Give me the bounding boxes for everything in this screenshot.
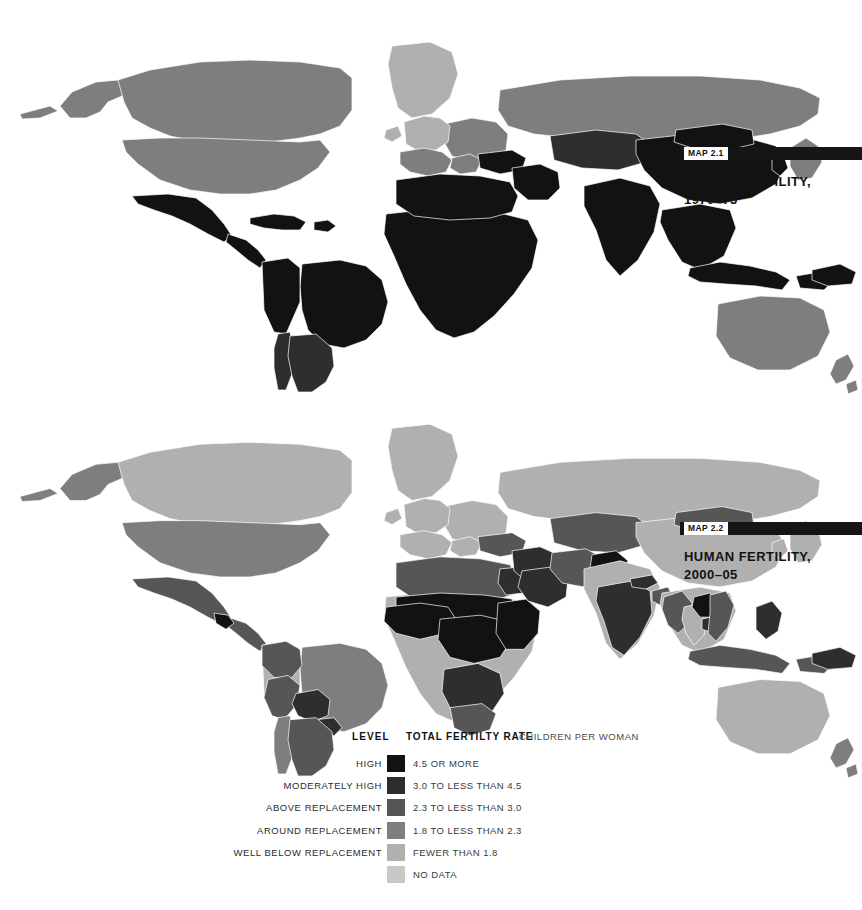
map-region bbox=[292, 690, 330, 722]
legend-level-label: HIGH bbox=[356, 758, 382, 769]
map-region bbox=[250, 214, 336, 232]
legend-header: LEVEL TOTAL FERTILTY RATE CHILDREN PER W… bbox=[0, 731, 862, 747]
legend-value-label: 3.0 TO LESS THAN 4.5 bbox=[413, 780, 522, 791]
map-region bbox=[708, 591, 734, 641]
map-heading-1: HUMAN FERTILITY, 1970–75 bbox=[684, 173, 862, 209]
map-heading-2: HUMAN FERTILITY, 2000–05 bbox=[684, 548, 862, 584]
map-region bbox=[20, 80, 126, 119]
legend-color-swatch bbox=[387, 777, 405, 794]
legend-value-label: NO DATA bbox=[413, 869, 457, 880]
map-region bbox=[716, 296, 830, 370]
legend-units-header: CHILDREN PER WOMAN bbox=[519, 731, 639, 742]
map-title-block-1: MAP 2.1 HUMAN FERTILITY, 1970–75 bbox=[670, 147, 862, 209]
map-region bbox=[584, 178, 660, 276]
legend-color-swatch bbox=[387, 866, 405, 883]
map-region bbox=[122, 138, 330, 194]
map-region bbox=[226, 234, 266, 268]
map-region bbox=[384, 499, 450, 535]
legend-row: ABOVE REPLACEMENT2.3 TO LESS THAN 3.0 bbox=[0, 799, 862, 821]
legend: LEVEL TOTAL FERTILTY RATE CHILDREN PER W… bbox=[0, 731, 862, 896]
legend-color-swatch bbox=[387, 822, 405, 839]
map-region bbox=[396, 174, 518, 220]
map-number-bar-1: MAP 2.1 bbox=[680, 147, 862, 160]
map-region bbox=[812, 647, 856, 669]
legend-row: HIGH4.5 OR MORE bbox=[0, 755, 862, 777]
legend-row: WELL BELOW REPLACEMENTFEWER THAN 1.8 bbox=[0, 844, 862, 866]
legend-rows: HIGH4.5 OR MOREMODERATELY HIGH3.0 TO LES… bbox=[0, 755, 862, 888]
map-title-block-2: MAP 2.2 HUMAN FERTILITY, 2000–05 bbox=[670, 522, 862, 584]
map-region bbox=[812, 264, 856, 286]
map-number-bar-2: MAP 2.2 bbox=[680, 522, 862, 535]
map-region bbox=[118, 442, 352, 526]
map-page: MAP 2.1 HUMAN FERTILITY, 1970–75 MAP 2.2… bbox=[0, 0, 862, 910]
map-region bbox=[132, 194, 232, 242]
map-number-label-2: MAP 2.2 bbox=[684, 522, 728, 535]
map-region bbox=[118, 60, 352, 144]
map-region bbox=[122, 521, 330, 577]
legend-level-label: WELL BELOW REPLACEMENT bbox=[234, 847, 382, 858]
map-region bbox=[384, 116, 450, 152]
map-number-label-1: MAP 2.1 bbox=[684, 147, 728, 160]
map-region bbox=[498, 458, 820, 524]
map-region bbox=[830, 354, 858, 394]
legend-level-header: LEVEL bbox=[352, 731, 390, 742]
map-region bbox=[596, 581, 652, 655]
map-region bbox=[384, 208, 538, 338]
map-region bbox=[498, 76, 820, 142]
map-region bbox=[512, 164, 560, 200]
legend-value-label: 1.8 TO LESS THAN 2.3 bbox=[413, 825, 522, 836]
legend-color-swatch bbox=[387, 799, 405, 816]
legend-level-label: ABOVE REPLACEMENT bbox=[266, 802, 382, 813]
legend-value-label: 4.5 OR MORE bbox=[413, 758, 479, 769]
map-region bbox=[756, 601, 782, 639]
legend-value-label: 2.3 TO LESS THAN 3.0 bbox=[413, 802, 522, 813]
legend-row: MODERATELY HIGH3.0 TO LESS THAN 4.5 bbox=[0, 777, 862, 799]
legend-level-label: MODERATELY HIGH bbox=[283, 780, 382, 791]
map-region bbox=[660, 204, 736, 270]
legend-value-label: FEWER THAN 1.8 bbox=[413, 847, 498, 858]
legend-color-swatch bbox=[387, 755, 405, 772]
legend-color-swatch bbox=[387, 844, 405, 861]
map-region bbox=[388, 424, 458, 500]
legend-rate-header: TOTAL FERTILTY RATE bbox=[406, 731, 533, 742]
legend-row: AROUND REPLACEMENT1.8 TO LESS THAN 2.3 bbox=[0, 822, 862, 844]
legend-row: NO DATA bbox=[0, 866, 862, 888]
map-region bbox=[262, 258, 300, 334]
map-region bbox=[388, 42, 458, 118]
map-panel-2000-05 bbox=[0, 400, 862, 780]
world-map-2000-05 bbox=[0, 400, 862, 780]
legend-level-label: AROUND REPLACEMENT bbox=[257, 825, 382, 836]
map-region bbox=[20, 462, 126, 501]
